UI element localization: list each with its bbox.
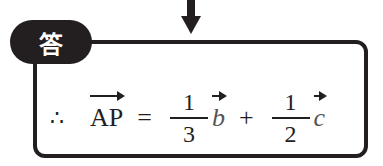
therefore-symbol: ∴ bbox=[50, 105, 66, 131]
answer-badge: 答 bbox=[10, 20, 92, 64]
answer-equation: ∴ AP = 13 b + 12 c bbox=[50, 88, 325, 148]
vector-ap: AP bbox=[90, 103, 123, 133]
equals-sign: = bbox=[137, 103, 152, 133]
plus-sign: + bbox=[239, 103, 254, 133]
vector-c: c bbox=[314, 103, 326, 133]
fraction-one-third: 13 bbox=[170, 89, 208, 147]
vector-b: b bbox=[212, 103, 225, 133]
fraction-one-half: 12 bbox=[272, 89, 310, 147]
